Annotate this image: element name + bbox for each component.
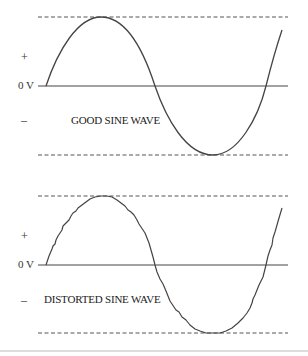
distorted-sine-wave-title: DISTORTED SINE WAVE [44,293,161,305]
distorted-sine-diagram [38,196,288,333]
bottom-plus-label: + [21,229,28,244]
bottom-zero-volt-label: 0 V [18,258,34,270]
top-minus-label: – [21,113,27,128]
good-sine-wave-title: GOOD SINE WAVE [71,114,160,126]
bottom-minus-label: – [21,293,27,308]
top-plus-label: + [21,50,28,65]
good-sine-diagram [38,17,288,155]
top-zero-volt-label: 0 V [18,79,34,91]
